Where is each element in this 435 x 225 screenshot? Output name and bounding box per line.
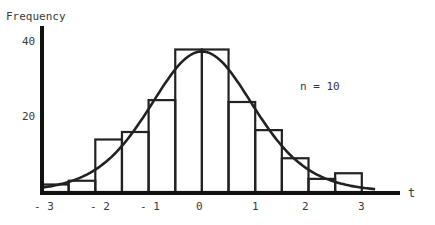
histogram-bar: [229, 102, 256, 192]
histogram-bar: [282, 158, 309, 192]
x-tick-minus-3: - 3: [34, 200, 54, 213]
x-axis-label: t: [408, 186, 415, 200]
density-curve: [42, 51, 375, 189]
histogram-bar: [175, 50, 202, 193]
histogram-bar: [69, 181, 96, 192]
histogram-bar: [202, 50, 229, 193]
x-tick-0: 0: [196, 200, 203, 213]
x-tick-minus-1: - 1: [140, 200, 160, 213]
x-tick-3: 3: [358, 200, 365, 213]
annotation-n: n = 10: [300, 80, 340, 93]
histogram-bar: [149, 100, 176, 192]
histogram-bars: [42, 50, 362, 193]
histogram-chart: [0, 0, 435, 225]
x-tick-2: 2: [302, 200, 309, 213]
y-tick-40: 40: [22, 35, 35, 48]
y-axis-label: Frequency: [6, 10, 66, 23]
x-tick-minus-2: - 2: [90, 200, 110, 213]
x-tick-1: 1: [252, 200, 259, 213]
y-tick-20: 20: [22, 110, 35, 123]
